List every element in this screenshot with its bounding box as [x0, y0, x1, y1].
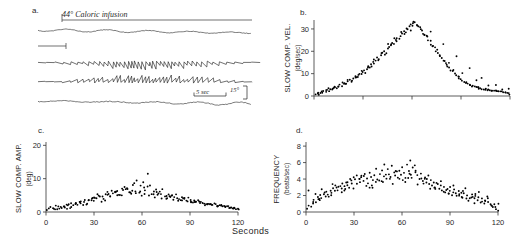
figure-x-axis-label: Seconds — [232, 226, 269, 236]
data-point — [114, 191, 116, 193]
data-point — [386, 178, 388, 180]
data-point — [308, 189, 310, 191]
data-point — [363, 180, 365, 182]
scale-bar-amplitude-label: 15° — [230, 86, 239, 93]
data-point — [363, 69, 365, 71]
data-point — [339, 84, 341, 86]
y-tick-label: 4 — [297, 175, 301, 184]
data-point — [380, 54, 382, 56]
x-tick-label: 90 — [446, 218, 454, 227]
data-point — [458, 193, 460, 195]
data-point — [469, 84, 471, 86]
data-point — [462, 190, 464, 192]
data-point — [124, 186, 126, 188]
data-point — [330, 190, 332, 192]
data-point — [455, 74, 457, 76]
data-point — [325, 191, 327, 193]
data-point — [83, 201, 85, 203]
data-point — [423, 183, 425, 185]
data-point — [332, 183, 334, 185]
data-point — [388, 173, 390, 175]
data-point — [393, 37, 395, 39]
data-point — [453, 188, 455, 190]
data-point — [369, 187, 371, 189]
data-point — [190, 199, 192, 201]
data-point — [325, 89, 327, 91]
data-point — [69, 207, 71, 209]
data-point — [375, 168, 377, 170]
data-point — [336, 87, 338, 89]
data-point — [449, 186, 451, 188]
data-point — [469, 197, 471, 199]
data-point — [161, 198, 163, 200]
data-point — [497, 210, 499, 212]
data-point — [92, 197, 94, 199]
data-point — [57, 205, 59, 207]
data-point — [426, 35, 428, 37]
data-point — [463, 192, 465, 194]
data-point — [369, 172, 371, 174]
data-point — [60, 206, 62, 208]
data-point — [411, 177, 413, 179]
data-point — [502, 91, 504, 93]
data-point — [153, 193, 155, 195]
data-point — [160, 193, 162, 195]
data-point — [393, 43, 395, 45]
data-point — [315, 93, 317, 95]
data-point — [103, 198, 105, 200]
y-tick-label: 0 — [305, 92, 309, 101]
data-point — [353, 188, 355, 190]
data-point — [487, 85, 489, 87]
data-point — [434, 188, 436, 190]
x-tick-label: 120 — [492, 218, 505, 227]
data-point — [490, 90, 492, 92]
data-point — [441, 57, 443, 59]
data-point — [169, 195, 171, 197]
data-point — [332, 88, 334, 90]
data-point — [321, 90, 323, 92]
data-point — [438, 188, 440, 190]
data-point — [63, 206, 65, 208]
x-tick-label: 30 — [350, 218, 358, 227]
y-tick-label: 0 — [37, 208, 41, 217]
panel-d-scatter-svg: 024680306090120 — [258, 120, 517, 245]
data-point — [478, 191, 480, 193]
data-point — [495, 84, 497, 86]
data-point — [361, 70, 363, 72]
panel-b-letter: b. — [300, 8, 307, 17]
data-point — [56, 208, 58, 210]
data-point — [486, 196, 488, 198]
data-point — [238, 208, 240, 210]
data-point — [312, 201, 314, 203]
data-point — [398, 38, 400, 40]
data-point — [389, 178, 391, 180]
x-tick-label: 90 — [186, 218, 194, 227]
panel-c-slow-comp-amplitude: c. SLOW COMP. AMP. (deg) 010200306090120 — [0, 120, 258, 245]
data-point — [68, 203, 70, 205]
data-point — [445, 189, 447, 191]
data-point — [371, 184, 373, 186]
data-point — [350, 179, 352, 181]
data-points — [306, 160, 499, 212]
data-point — [136, 180, 138, 182]
data-point — [354, 178, 356, 180]
data-point — [147, 186, 149, 188]
data-point — [427, 39, 429, 41]
data-point — [460, 192, 462, 194]
data-point — [344, 185, 346, 187]
data-point — [166, 195, 168, 197]
data-point — [334, 190, 336, 192]
data-point — [355, 75, 357, 77]
data-point — [347, 79, 349, 81]
data-point — [370, 63, 372, 65]
data-point — [324, 192, 326, 194]
data-point — [393, 171, 395, 173]
data-point — [349, 79, 351, 81]
data-point — [341, 183, 343, 185]
data-point — [72, 204, 74, 206]
data-point — [88, 199, 90, 201]
data-point — [159, 191, 161, 193]
data-point — [388, 46, 390, 48]
panel-a-letter: a. — [32, 6, 39, 15]
panel-d-letter: d. — [296, 126, 303, 135]
